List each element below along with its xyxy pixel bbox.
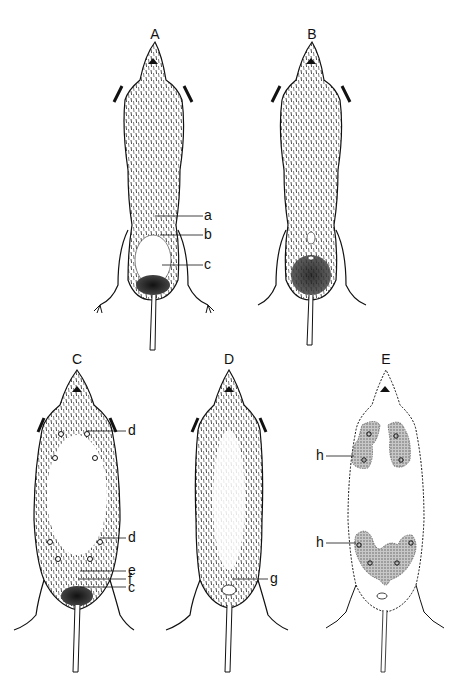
callout-a: a bbox=[204, 208, 212, 222]
callout-b: b bbox=[204, 227, 212, 241]
callout-c: c bbox=[204, 257, 211, 271]
panel-label-d: D bbox=[224, 352, 234, 366]
callout-d-upper: d bbox=[128, 423, 136, 437]
callout-c-lower: c bbox=[128, 580, 135, 594]
callout-d-lower: d bbox=[128, 530, 136, 544]
panel-label-c: C bbox=[72, 352, 82, 366]
rodent-panel-c bbox=[14, 370, 134, 672]
rodent-panel-b bbox=[258, 42, 366, 345]
rodent-panel-d bbox=[166, 370, 288, 672]
rodent-panel-a bbox=[94, 42, 214, 350]
rodent-panel-e bbox=[326, 370, 444, 672]
callout-g: g bbox=[270, 571, 278, 585]
rodent-illustrations bbox=[0, 0, 454, 684]
panel-label-e: E bbox=[381, 352, 390, 366]
callout-h-upper: h bbox=[316, 448, 324, 462]
callout-h-lower: h bbox=[316, 535, 324, 549]
panel-label-a: A bbox=[150, 27, 159, 41]
panel-label-b: B bbox=[307, 27, 316, 41]
